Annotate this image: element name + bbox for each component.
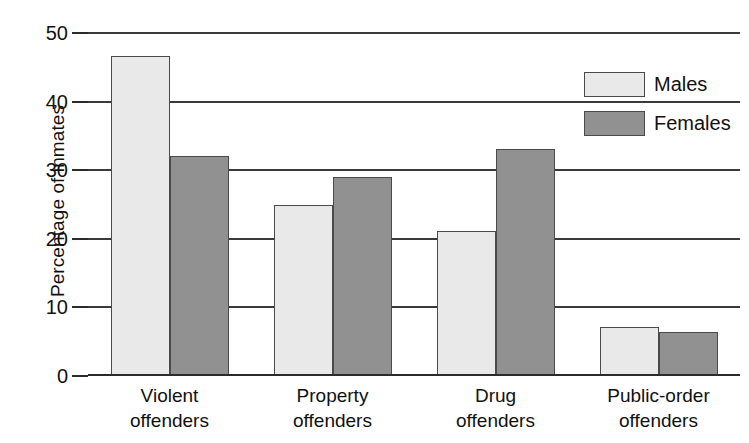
legend-item-males: Males (584, 68, 744, 100)
y-axis-tick-labels: 01020304050 (28, 0, 68, 443)
y-tick-label: 40 (32, 92, 68, 112)
x-category-label-line: offenders (549, 408, 749, 433)
bar-males-2 (437, 231, 496, 376)
legend-swatch-females (584, 111, 645, 136)
x-category-label: Public-orderoffenders (549, 383, 749, 433)
y-tick-mark (72, 32, 88, 34)
y-tick-mark (72, 238, 88, 240)
y-tick-label: 50 (32, 23, 68, 43)
bar-females-0 (170, 156, 229, 376)
x-category-label-line: Public-order (549, 383, 749, 408)
legend-item-females: Females (584, 107, 744, 139)
bar-females-1 (333, 177, 392, 376)
legend-swatch-males (584, 72, 645, 97)
gridline (88, 32, 740, 34)
y-tick-mark (72, 169, 88, 171)
legend: MalesFemales (584, 68, 744, 146)
legend-label: Males (654, 74, 707, 94)
y-tick-label: 10 (32, 297, 68, 317)
bar-males-3 (600, 327, 659, 376)
y-tick-mark (72, 306, 88, 308)
y-tick-label: 30 (32, 160, 68, 180)
y-tick-mark (72, 375, 88, 377)
x-axis-line (88, 374, 740, 376)
bar-females-3 (659, 332, 718, 376)
y-tick-label: 20 (32, 229, 68, 249)
bar-females-2 (496, 149, 555, 376)
bar-males-1 (274, 205, 333, 377)
bar-chart: Percentage of inmates 01020304050 Violen… (0, 0, 749, 443)
legend-label: Females (654, 113, 731, 133)
bar-males-0 (111, 56, 170, 376)
y-tick-mark (72, 101, 88, 103)
